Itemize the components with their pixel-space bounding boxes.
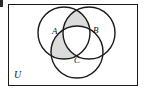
universal-set-label: U [14, 70, 21, 80]
set-label-c: C [74, 56, 80, 65]
set-label-b: B [93, 26, 99, 35]
venn-diagram-figure: A B C U [0, 0, 144, 90]
venn-circles-graphic [0, 0, 144, 90]
set-label-a: A [52, 27, 58, 36]
